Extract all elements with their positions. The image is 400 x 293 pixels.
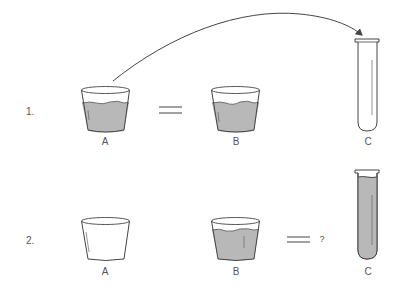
pour-arrow (113, 13, 362, 81)
label-2a: A (102, 267, 109, 277)
test-tube-1c (355, 39, 379, 131)
beaker-2b (212, 218, 260, 261)
equals-sign-2 (287, 237, 310, 242)
label-1a: A (102, 137, 109, 147)
question-mark: ? (319, 235, 324, 244)
test-tube-2c (355, 170, 379, 259)
row-number-1: 1. (26, 107, 34, 117)
label-1b: B (233, 137, 240, 147)
beaker-2a (82, 218, 130, 261)
conservation-diagram (0, 0, 400, 293)
liquid-2b (212, 229, 259, 261)
beaker-1a (82, 87, 130, 133)
liquid-1b (212, 101, 259, 132)
label-2b: B (233, 267, 240, 277)
label-2c: C (364, 267, 371, 277)
beaker-1b (212, 87, 260, 133)
equals-sign-1 (159, 107, 182, 113)
liquid-2c (358, 177, 377, 259)
liquid-1a (82, 101, 129, 132)
row-number-2: 2. (26, 236, 34, 246)
label-1c: C (364, 137, 371, 147)
